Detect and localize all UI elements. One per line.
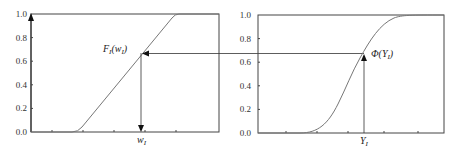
- w-axis-label: wI: [137, 134, 147, 147]
- left-y-tick-4: 0.8: [16, 33, 28, 43]
- right-plot-frame: [258, 15, 444, 133]
- right-y-tick-4: 0.8: [240, 34, 252, 44]
- right-y-tick-1: 0.2: [240, 104, 251, 114]
- right-y-tick-0: 0.0: [240, 128, 252, 138]
- left-arrowhead-icon: [142, 51, 149, 57]
- diagram-canvas: 0.0 0.2 0.4 0.6 0.8 1.0 FI(wI) wI: [0, 0, 457, 148]
- left-plot-frame: [31, 14, 219, 132]
- left-y-tick-2: 0.4: [16, 80, 28, 90]
- right-y-tick-5: 1.0: [240, 10, 252, 20]
- left-y-tick-5: 1.0: [16, 9, 28, 19]
- empirical-cdf-curve: [31, 14, 219, 132]
- left-y-tick-0: 0.0: [16, 127, 28, 137]
- y-axis-marker-label: YI: [360, 135, 369, 148]
- right-panel: 0.0 0.2 0.4 0.6 0.8 1.0 Φ(YI) YI: [240, 10, 444, 148]
- left-panel: 0.0 0.2 0.4 0.6 0.8 1.0 FI(wI) wI: [16, 9, 219, 147]
- phi-label: Φ(YI): [371, 48, 394, 61]
- cdf-label-F: FI(wI): [102, 43, 128, 56]
- left-y-tick-1: 0.2: [16, 103, 27, 113]
- right-y-tick-3: 0.6: [240, 57, 252, 67]
- left-y-tick-3: 0.6: [16, 56, 28, 66]
- down-arrowhead-icon: [138, 125, 144, 132]
- right-y-tick-2: 0.4: [240, 81, 252, 91]
- normal-cdf-curve: [258, 15, 444, 133]
